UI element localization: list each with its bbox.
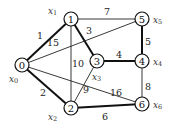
node-2: 2 — [64, 101, 78, 115]
node-label: 4 — [139, 56, 145, 67]
edge-weight-label: 7 — [104, 6, 110, 17]
node-4: 4 — [135, 54, 149, 68]
edge-weight-label: 15 — [47, 37, 59, 48]
node-6: 6 — [135, 97, 149, 111]
node-label: 0 — [19, 60, 25, 71]
edge-weight-label: 3 — [86, 25, 92, 36]
node-variable-label: x3 — [92, 72, 101, 83]
graph-diagram: 123456789101516 0123456 x0x1x2x3x4x5x6 — [0, 0, 176, 126]
edge-weight-label: 1 — [37, 30, 43, 41]
node-variable-label: x6 — [153, 100, 162, 111]
node-variable-label: x0 — [9, 74, 18, 85]
edge-weight-label: 9 — [83, 84, 89, 95]
node-5: 5 — [135, 12, 149, 26]
node-label: 5 — [139, 14, 145, 25]
edge-weight-label: 2 — [40, 87, 46, 98]
node-variable-label: x4 — [153, 57, 162, 68]
edge-weight-label: 8 — [145, 81, 151, 92]
node-0: 0 — [15, 58, 29, 72]
edge-weight-label: 10 — [72, 58, 84, 69]
node-label: 2 — [68, 103, 74, 114]
edge-weight-label: 4 — [116, 49, 122, 60]
node-variable-label: x2 — [48, 112, 57, 123]
node-1: 1 — [64, 12, 78, 26]
edge-weight-label: 6 — [102, 111, 108, 122]
node-label: 1 — [68, 14, 74, 25]
node-variable-label: x1 — [48, 6, 57, 17]
edge-0-2 — [22, 65, 71, 108]
edge-2-6 — [71, 104, 142, 108]
edge-weight-label: 16 — [110, 87, 122, 98]
node-label: 6 — [139, 99, 145, 110]
node-variable-label: x5 — [153, 15, 162, 26]
node-label: 3 — [94, 56, 100, 67]
node-3: 3 — [90, 54, 104, 68]
edge-weight-label: 5 — [145, 36, 151, 47]
